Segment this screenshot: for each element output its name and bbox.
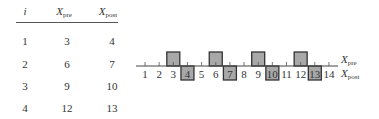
svg-text:1: 1 — [142, 68, 148, 80]
svg-text:12: 12 — [295, 68, 306, 80]
label-x-pre: Xpre — [340, 53, 357, 67]
svg-text:5: 5 — [199, 68, 205, 80]
svg-text:13: 13 — [309, 68, 321, 80]
label-x-post: Xpost — [340, 67, 359, 81]
svg-text:8: 8 — [241, 68, 247, 80]
svg-text:6: 6 — [213, 68, 219, 80]
svg-text:11: 11 — [281, 68, 292, 80]
svg-text:14: 14 — [323, 68, 335, 80]
svg-text:4: 4 — [185, 68, 191, 80]
svg-text:7: 7 — [227, 68, 233, 80]
svg-text:9: 9 — [255, 68, 261, 80]
svg-text:3: 3 — [171, 68, 177, 80]
svg-text:10: 10 — [267, 68, 279, 80]
pre-post-timeline-diagram: 1234567891011121314 Xpre Xpost — [0, 0, 379, 119]
svg-text:2: 2 — [156, 68, 162, 80]
